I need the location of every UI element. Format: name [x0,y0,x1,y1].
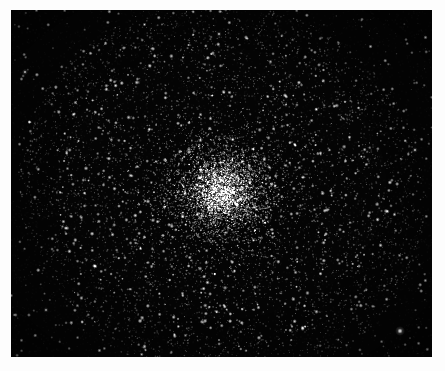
caption-layer [0,359,445,371]
sky-plate [11,10,432,357]
screenshot-root [0,0,445,371]
starfield-canvas [11,10,432,357]
